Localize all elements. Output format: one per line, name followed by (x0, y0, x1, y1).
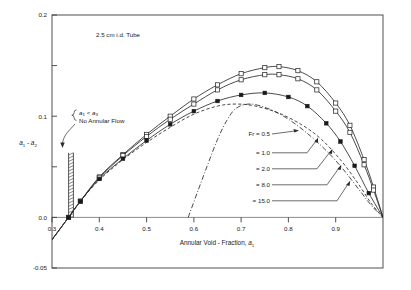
data-point-marker (348, 123, 352, 127)
legend-leader-3 (272, 168, 339, 185)
data-point-marker (192, 102, 196, 106)
legend-label-1: = 1.0 (256, 149, 270, 156)
x-tick-label-6: 0.9 (331, 225, 340, 232)
no-annular-flow-annotation: a1 < a3 No Annular Flow (60, 109, 125, 149)
x-tick-label-4: 0.7 (237, 225, 246, 232)
data-point-marker (168, 123, 172, 127)
data-point-marker (239, 78, 243, 82)
legend-arrowhead-3-icon (337, 165, 341, 170)
no-annular-flow-hatch-region (69, 153, 74, 218)
series-group (52, 65, 383, 240)
data-point-marker (296, 77, 300, 81)
figure-container: 0.2 0.1 0.0 -0.05 0.3 0.4 0.5 0.6 0.7 0.… (0, 0, 411, 290)
data-point-marker (277, 65, 281, 69)
x-axis-title-text: Annular Void - Fraction, (180, 239, 249, 246)
data-point-marker (67, 216, 71, 220)
y-tick-label-1: 0.1 (38, 113, 47, 120)
data-point-marker (263, 66, 267, 70)
data-point-marker (239, 72, 243, 76)
data-point-marker (348, 130, 352, 134)
data-point-marker (192, 109, 196, 113)
legend-label-0: Fr = 0.5 (249, 130, 271, 137)
series-line-fr-0-5 (52, 66, 383, 239)
x-tick-label-0: 0.3 (48, 225, 57, 232)
x-tick-marks (52, 217, 336, 222)
data-point-marker (192, 97, 196, 101)
y-tick-label-2: 0.0 (38, 214, 47, 221)
data-point-marker (263, 91, 267, 95)
legend: Fr = 0.5 = 1.0 = 2.0 = 8.0 = 15.0 (249, 129, 351, 204)
x-tick-label-3: 0.6 (190, 225, 199, 232)
data-point-marker (79, 199, 83, 203)
data-point-marker (334, 101, 338, 105)
data-point-marker (367, 191, 371, 195)
data-point-marker (362, 163, 366, 167)
data-point-marker (145, 139, 149, 143)
legend-leader-1 (272, 141, 316, 153)
legend-arrowhead-4-icon (346, 181, 350, 186)
legend-leader-4 (272, 184, 348, 201)
data-point-marker (315, 80, 319, 84)
x-tick-label-5: 0.8 (284, 225, 293, 232)
data-point-marker (263, 73, 267, 77)
x-tick-label-1: 0.4 (95, 225, 104, 232)
data-point-marker (315, 88, 319, 92)
series-markers-fr-2-0 (67, 91, 371, 219)
data-point-marker (277, 73, 281, 77)
brace-icon (72, 110, 77, 120)
data-point-marker (215, 83, 219, 87)
data-point-marker (239, 93, 243, 97)
data-point-marker (215, 88, 219, 92)
legend-arrowhead-0-icon (293, 129, 299, 133)
data-point-marker (168, 117, 172, 121)
legend-leader-2 (272, 152, 330, 169)
tube-note-annotation: 2.5 cm i.d. Tube (96, 31, 141, 38)
data-point-marker (362, 158, 366, 162)
data-point-marker (121, 157, 125, 161)
data-point-marker (353, 164, 357, 168)
x-axis-title-sub: 1 (252, 243, 255, 248)
y-axis-title: a1 - a2 (19, 139, 37, 148)
data-point-marker (296, 69, 300, 73)
chart-canvas: 0.2 0.1 0.0 -0.05 0.3 0.4 0.5 0.6 0.7 0.… (0, 0, 411, 290)
data-point-marker (371, 188, 375, 192)
y-tick-label-0: 0.2 (38, 11, 47, 18)
data-point-marker (324, 121, 328, 125)
series-line-fr-15-0 (188, 104, 383, 217)
annotation-arrow-line (63, 124, 76, 143)
no-flow-line2: No Annular Flow (79, 117, 125, 124)
data-point-marker (144, 134, 148, 138)
legend-label-2: = 2.0 (256, 165, 270, 172)
legend-arrowhead-2-icon (328, 149, 332, 154)
annotation-arrowhead-icon (60, 143, 64, 148)
y-axis-title-sub2: 2 (34, 143, 37, 148)
series-line-fr-8-0 (52, 104, 383, 240)
legend-label-3: = 8.0 (256, 181, 270, 188)
data-point-marker (334, 109, 338, 113)
data-point-marker (339, 140, 343, 144)
x-tick-label-2: 0.5 (142, 225, 151, 232)
data-point-marker (97, 177, 101, 181)
data-point-marker (216, 99, 220, 103)
data-point-marker (306, 104, 310, 108)
x-axis-title: Annular Void - Fraction, a1 (180, 239, 255, 248)
legend-label-4: = 15.0 (253, 197, 271, 204)
legend-leader-0 (272, 131, 295, 134)
y-tick-label-3: -0.05 (33, 264, 48, 271)
data-point-marker (287, 95, 291, 99)
